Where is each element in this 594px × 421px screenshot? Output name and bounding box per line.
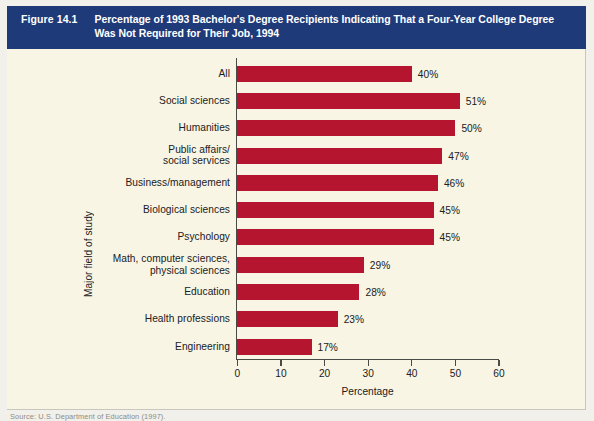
category-label: Biological sciences [143, 204, 237, 216]
x-axis-tick [368, 360, 369, 366]
bar-row: Health professions23% [7, 306, 586, 333]
bar [237, 257, 363, 273]
bar-row: Math, computer sciences,physical science… [7, 251, 586, 278]
figure-title-line-1: Percentage of 1993 Bachelor's Degree Rec… [95, 13, 555, 27]
category-label: Engineering [175, 341, 237, 353]
x-axis-tick-label: 0 [235, 368, 241, 379]
category-label-line-1: Psychology [177, 232, 230, 243]
bar [237, 229, 433, 245]
figure-number: Figure 14.1 [21, 13, 78, 25]
x-axis-tick-label: 50 [450, 368, 461, 379]
bar-value-label: 50% [455, 123, 481, 134]
category-label-line-1: Health professions [145, 313, 230, 324]
bar-value-label: 28% [359, 287, 385, 298]
bar-value-label: 40% [412, 68, 438, 79]
bar-value-label: 51% [460, 95, 486, 106]
bar-value-label: 46% [438, 177, 464, 188]
bar-row: All40% [7, 60, 586, 87]
bar [237, 311, 337, 327]
bar-row: Biological sciences45% [7, 196, 586, 223]
category-label-line-2: physical sciences [113, 265, 230, 277]
bar [237, 175, 438, 191]
bar [237, 284, 359, 300]
bar-row: Psychology45% [7, 224, 586, 251]
figure-header-band: Figure 14.1 Percentage of 1993 Bachelor'… [7, 6, 586, 49]
plot-region: All40%Social sciences51%Humanities50%Pub… [7, 49, 586, 410]
category-label-line-2: social services [163, 156, 230, 168]
category-label: Public affairs/social services [163, 144, 237, 168]
x-axis-tick [324, 360, 325, 366]
x-axis-tick-label: 60 [493, 368, 504, 379]
bar-row: Public affairs/social services47% [7, 142, 586, 169]
category-label-line-1: Education [184, 286, 230, 297]
source-note: Source: U.S. Department of Education (19… [10, 412, 166, 421]
x-axis-tick-label: 10 [275, 368, 286, 379]
x-axis-tick-label: 40 [406, 368, 417, 379]
bar-row: Humanities50% [7, 115, 586, 142]
category-label: Math, computer sciences,physical science… [113, 253, 237, 277]
bar [237, 339, 311, 355]
bar [237, 66, 411, 82]
category-label-line-1: All [219, 68, 230, 79]
bar-row: Engineering17% [7, 333, 586, 360]
bar-value-label: 17% [312, 341, 338, 352]
bar-value-label: 45% [434, 205, 460, 216]
category-label-line-1: Biological sciences [143, 204, 230, 215]
category-label: Health professions [145, 313, 237, 325]
bar-row: Social sciences51% [7, 87, 586, 114]
category-label-line-1: Engineering [175, 341, 230, 352]
x-axis-tick [498, 360, 499, 366]
bar [237, 120, 455, 136]
category-label-line-1: Humanities [179, 122, 230, 133]
category-label: Education [184, 286, 237, 298]
x-axis-tick [411, 360, 412, 366]
x-axis-title: Percentage [236, 386, 499, 397]
bar-value-label: 23% [338, 314, 364, 325]
bar-value-label: 29% [364, 259, 390, 270]
bar-value-label: 47% [442, 150, 468, 161]
x-axis-tick [237, 360, 238, 366]
category-label: Social sciences [159, 95, 237, 107]
bar [237, 202, 433, 218]
chart-area: Major field of study All40%Social scienc… [7, 49, 586, 410]
x-axis-tick-labels: 0102030405060 [7, 368, 586, 382]
bar-rows: All40%Social sciences51%Humanities50%Pub… [7, 60, 586, 360]
category-label-line-1: Social sciences [159, 95, 230, 106]
figure-title: Percentage of 1993 Bachelor's Degree Rec… [95, 13, 555, 40]
category-label-line-1: Business/management [125, 177, 230, 188]
x-axis-tick [280, 360, 281, 366]
x-axis-ticks [7, 360, 586, 368]
category-label: All [219, 68, 237, 80]
bar [237, 93, 459, 109]
figure-root: Figure 14.1 Percentage of 1993 Bachelor'… [0, 0, 594, 421]
category-label: Humanities [179, 122, 237, 134]
bar-row: Education28% [7, 278, 586, 305]
bar-row: Business/management46% [7, 169, 586, 196]
category-label: Psychology [177, 232, 237, 244]
category-label-line-1: Math, computer sciences, [113, 253, 230, 264]
figure-title-line-2: Was Not Required for Their Job, 1994 [95, 27, 555, 41]
x-axis-tick [455, 360, 456, 366]
category-label: Business/management [125, 177, 237, 189]
x-axis-tick-label: 30 [363, 368, 374, 379]
bar [237, 148, 442, 164]
bar-value-label: 45% [434, 232, 460, 243]
category-label-line-1: Public affairs/ [168, 144, 230, 155]
x-axis-tick-label: 20 [319, 368, 330, 379]
